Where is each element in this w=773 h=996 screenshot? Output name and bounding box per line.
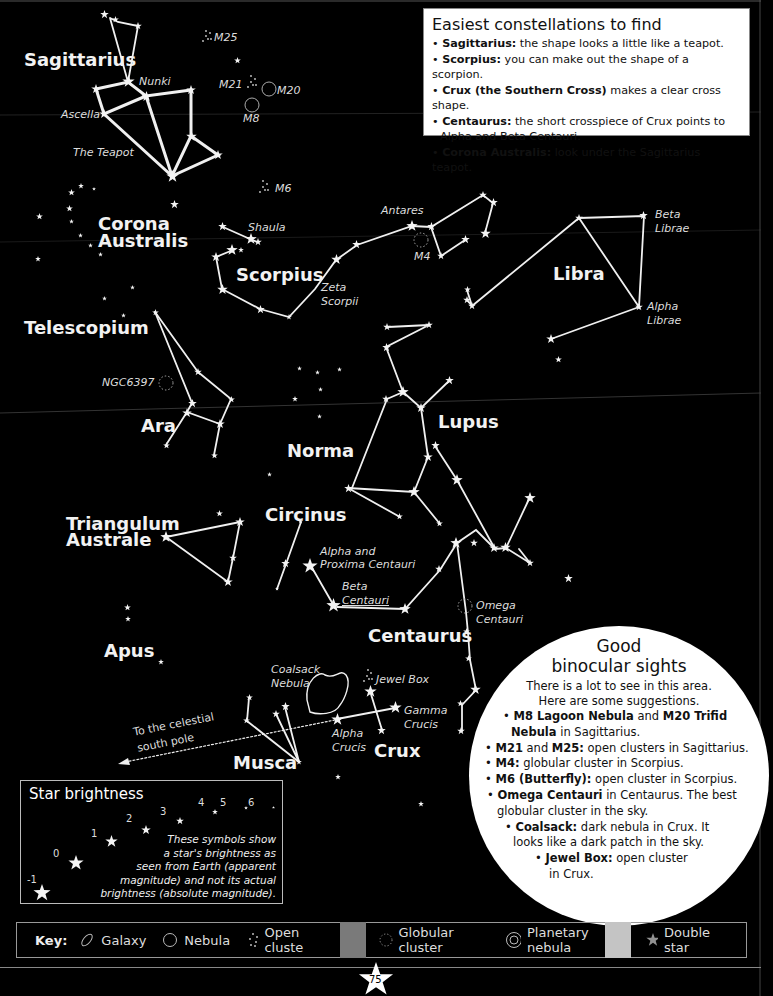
star-brightness-legend: Star brightness -1 0 1 2 3 4 5 6 These s… [20, 780, 283, 904]
label-alpha-librae-1: Alpha [647, 300, 678, 313]
binocular-item: • Omega Centauri in Centaurus. The best [487, 788, 773, 804]
key-item-nebula: Nebula [162, 932, 230, 948]
label-apus: Apus [104, 641, 154, 660]
planetary-nebula-icon [505, 931, 521, 949]
label-m20: M20 [277, 84, 301, 97]
brightness-description: These symbols show a star's brightness a… [100, 833, 276, 901]
info-item: Alpha and Beta Centauri. [432, 129, 741, 145]
label-circinus: Circinus [265, 505, 346, 524]
easiest-constellations-box: Easiest constellations to find • Sagitta… [423, 8, 750, 136]
info-item: • Corona Australis: look under the Sagit… [432, 145, 741, 176]
binocular-item: Nebula in Sagittarius. [511, 725, 773, 741]
binocular-item: • M4: globular cluster in Scorpius. [485, 756, 773, 772]
label-zeta-scorpii-2: Scorpii [321, 295, 358, 308]
label-alpha-proxima-2: Proxima Centauri [320, 558, 415, 571]
label-shaula: Shaula [248, 221, 285, 234]
label-norma: Norma [287, 441, 354, 460]
label-scorpius: Scorpius [236, 265, 323, 284]
label-ngc6397: NGC6397 [102, 376, 154, 389]
label-musca: Musca [233, 753, 297, 772]
label-gamma-crucis-1: Gamma [404, 704, 447, 717]
label-telescopium: Telescopium [24, 318, 149, 337]
binocular-item: looks like a dark patch in the sky. [513, 835, 773, 851]
info-item: • Scorpius: you can make out the shape o… [432, 52, 741, 83]
double-star-icon [646, 933, 658, 947]
label-corona-australis-2: Australis [98, 231, 188, 250]
label-the-teapot: The Teapot [73, 146, 134, 159]
binocular-title-1: Good [469, 636, 769, 656]
key-item-galaxy: Galaxy [79, 933, 146, 948]
label-beta-librae-2: Librae [655, 222, 689, 235]
label-jewel-box: Jewel Box [376, 673, 429, 686]
map-key: Key: Galaxy Nebula Open cluste Globular … [16, 922, 747, 958]
label-coalsack-2: Nebula [271, 677, 310, 690]
label-m4: M4 [414, 250, 431, 263]
binocular-title-2: binocular sights [469, 656, 769, 676]
label-libra: Libra [553, 264, 605, 283]
key-item-double-star: Double star [646, 925, 730, 955]
info-box-title: Easiest constellations to find [432, 15, 741, 34]
label-alpha-librae-2: Librae [647, 314, 681, 327]
binocular-intro: There is a lot to see in this area. Here… [469, 679, 769, 709]
info-item: • Centaurus: the short crosspiece of Cru… [432, 114, 741, 130]
key-item-open-cluster: Open cluste [246, 925, 332, 955]
key-label: Key: [35, 933, 67, 948]
page-number: 75 [369, 974, 382, 985]
label-ascella: Ascella [61, 108, 100, 121]
binocular-item: • Coalsack: dark nebula in Crux. It [505, 820, 773, 836]
binocular-item: globular cluster in the sky. [497, 804, 773, 820]
nebula-icon [162, 932, 178, 948]
binocular-item: • M8 Lagoon Nebula and M20 Trifid [503, 709, 773, 725]
key-gray-block [605, 922, 631, 958]
binocular-sights-panel: Good binocular sights There is a lot to … [469, 626, 769, 926]
key-gray-block [340, 922, 366, 958]
label-omega-centauri-1: Omega [476, 599, 516, 612]
label-ara: Ara [141, 416, 176, 435]
label-coalsack-1: Coalsack [271, 663, 320, 676]
label-nunki: Nunki [139, 75, 171, 88]
binocular-item: • M21 and M25: open clusters in Sagittar… [485, 741, 773, 757]
key-item-globular-cluster: Globular cluster [378, 925, 489, 955]
label-triangulum-australe-2: Australe [66, 530, 151, 549]
open-cluster-icon [246, 932, 258, 948]
label-beta-centauri-2: Centauri [342, 594, 389, 607]
binocular-list: • M8 Lagoon Nebula and M20 Trifid Nebula… [469, 709, 769, 883]
label-alpha-crucis-1: Alpha [332, 727, 363, 740]
label-alpha-crucis-2: Crucis [332, 741, 366, 754]
label-omega-centauri-2: Centauri [476, 613, 523, 626]
label-sagittarius: Sagittarius [24, 50, 136, 69]
label-gamma-crucis-2: Crucis [404, 718, 438, 731]
info-item: • Sagittarius: the shape looks a little … [432, 36, 741, 52]
label-m21: M21 [219, 78, 243, 91]
label-beta-centauri-1: Beta [342, 580, 367, 593]
label-centaurus: Centaurus [368, 626, 472, 645]
binocular-item: in Crux. [549, 867, 773, 883]
label-alpha-proxima-1: Alpha and [320, 545, 375, 558]
globular-cluster-icon [378, 932, 392, 948]
label-zeta-scorpii-1: Zeta [321, 281, 346, 294]
label-m6: M6 [275, 182, 292, 195]
binocular-item: • Jewel Box: open cluster [535, 851, 773, 867]
binocular-item: • M6 (Butterfly): open cluster in Scorpi… [485, 772, 773, 788]
info-item: • Crux (the Southern Cross) makes a clea… [432, 83, 741, 114]
label-crux: Crux [374, 741, 421, 760]
label-m25: M25 [214, 31, 238, 44]
galaxy-icon [79, 933, 95, 947]
label-beta-librae-1: Beta [655, 208, 680, 221]
label-lupus: Lupus [438, 412, 499, 431]
label-m8: M8 [243, 112, 260, 125]
label-antares: Antares [381, 204, 424, 217]
